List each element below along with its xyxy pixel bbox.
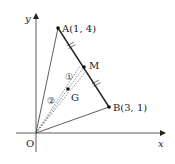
label-M: M bbox=[89, 60, 99, 71]
label-B: B(3, 1) bbox=[113, 102, 147, 113]
segment-label-GM: ① bbox=[65, 72, 73, 82]
point-B bbox=[107, 105, 111, 109]
segment-OA bbox=[36, 28, 58, 133]
segment-label-OG: ② bbox=[47, 96, 55, 106]
segment-OB bbox=[36, 107, 109, 133]
point-G bbox=[66, 87, 70, 91]
tick-marks-MB bbox=[92, 80, 101, 87]
x-axis-label: x bbox=[158, 138, 164, 149]
label-A: A(1, 4) bbox=[61, 23, 96, 34]
point-M bbox=[82, 65, 86, 69]
y-axis-label: y bbox=[24, 13, 31, 24]
label-G: G bbox=[71, 92, 79, 103]
diagram-figure: x y O A(1, 4) B(3, 1) M G ① ② bbox=[0, 0, 175, 164]
point-A bbox=[56, 26, 60, 30]
origin-label: O bbox=[26, 138, 34, 149]
